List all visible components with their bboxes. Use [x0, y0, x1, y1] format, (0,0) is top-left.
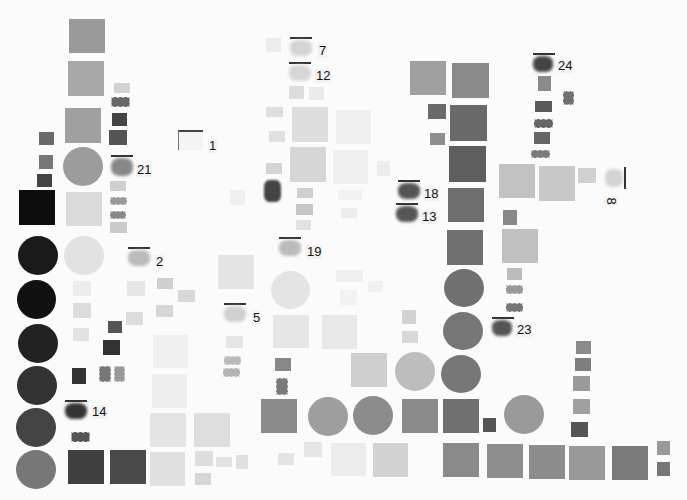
label-bar-icon	[224, 303, 246, 305]
label-bar-icon	[65, 400, 87, 402]
swatch-circle	[64, 236, 104, 275]
swatch-square	[297, 188, 313, 198]
label-number: 13	[421, 210, 437, 224]
swatch-square	[103, 340, 120, 355]
swatch-zigzag	[99, 366, 111, 382]
swatch-strip	[110, 222, 127, 233]
swatch-square	[338, 190, 362, 200]
swatch-square	[39, 155, 53, 169]
label-bar-icon	[398, 180, 420, 182]
swatch-square	[195, 451, 213, 466]
swatch-square	[571, 422, 588, 437]
swatch-square	[340, 290, 357, 305]
swatch-square	[261, 399, 297, 433]
swatch-square	[269, 131, 285, 142]
swatch-square	[296, 220, 311, 230]
swatch-square	[573, 399, 590, 414]
swatch-square	[443, 399, 479, 433]
label-number: 7	[318, 44, 327, 58]
label-number: 21	[136, 163, 152, 177]
swatch-zigzag	[531, 150, 550, 158]
swatch-square	[266, 163, 282, 174]
swatch-square	[289, 86, 304, 99]
label-number: 24	[557, 59, 573, 73]
swatch-square	[152, 374, 187, 408]
swatch-square	[72, 368, 86, 384]
swatch-zigzag	[506, 285, 523, 294]
sample-blob-icon	[396, 206, 418, 222]
swatch-square	[37, 174, 52, 187]
swatch-square	[178, 290, 195, 302]
swatch-circle	[395, 352, 435, 391]
swatch-square	[65, 108, 101, 143]
swatch-square	[483, 418, 496, 432]
swatch-square	[69, 19, 105, 53]
swatch-circle	[18, 236, 58, 275]
swatch-square	[194, 413, 230, 447]
swatch-zigzag	[111, 97, 130, 107]
swatch-square	[157, 278, 173, 289]
swatch-square	[218, 255, 254, 289]
swatch-square	[290, 147, 326, 182]
swatch-circle	[16, 450, 56, 489]
swatch-circle	[444, 269, 484, 307]
label-number: 1	[208, 139, 217, 153]
swatch-square	[443, 443, 479, 477]
swatch-square	[68, 450, 104, 484]
swatch-zigzag	[114, 366, 125, 382]
swatch-circle	[271, 271, 310, 309]
swatch-square	[452, 63, 489, 98]
swatch-zigzag	[506, 303, 523, 312]
sample-blob-icon	[290, 40, 312, 56]
swatch-zigzag	[110, 211, 126, 219]
swatch-square	[110, 450, 146, 484]
swatch-square	[156, 305, 173, 317]
swatch-square	[195, 473, 211, 485]
label-number: 14	[91, 405, 107, 419]
swatch-square	[576, 341, 591, 354]
swatch-square	[127, 281, 145, 296]
swatch-circle	[441, 355, 481, 393]
swatch-square-black	[19, 190, 55, 225]
swatch-square	[150, 413, 186, 447]
swatch-square	[216, 457, 232, 467]
swatch-square	[430, 133, 445, 145]
swatch-square	[266, 38, 281, 52]
sample-blob-icon	[398, 183, 420, 199]
swatch-square	[68, 61, 104, 96]
swatch-square	[447, 230, 483, 265]
swatch-square	[507, 268, 522, 280]
swatch-square	[275, 358, 291, 371]
sample-blob-icon	[65, 403, 87, 419]
swatch-square	[296, 204, 313, 215]
sample-blob-icon	[289, 65, 311, 81]
swatch-square	[351, 353, 387, 387]
swatch-strip	[114, 83, 130, 93]
label-bar-icon	[396, 203, 418, 205]
label-number: 23	[516, 323, 532, 337]
label-bar-icon	[624, 167, 626, 189]
swatch-zigzag	[563, 91, 574, 105]
label-bar-icon	[290, 37, 312, 39]
label-number: 19	[306, 245, 322, 259]
swatch-square	[534, 132, 550, 144]
swatch-circle	[63, 147, 103, 186]
sample-blob-icon	[128, 250, 150, 266]
swatch-square	[450, 105, 487, 141]
sample-blob-icon	[533, 56, 553, 72]
swatch-square	[109, 130, 127, 145]
swatch-square	[499, 164, 535, 198]
sample-blob-icon	[279, 240, 301, 256]
swatch-square	[448, 188, 484, 222]
swatch-circle	[17, 366, 57, 405]
swatch-square	[503, 210, 517, 225]
swatch-square	[368, 281, 383, 292]
swatch-circle	[18, 324, 58, 363]
sample-blob-icon	[224, 306, 246, 322]
swatch-square	[309, 87, 324, 100]
sample-blob-icon	[605, 169, 623, 187]
swatch-square	[575, 358, 591, 371]
swatch-square	[487, 444, 523, 478]
swatch-square	[377, 161, 390, 176]
swatch-square	[428, 104, 446, 119]
